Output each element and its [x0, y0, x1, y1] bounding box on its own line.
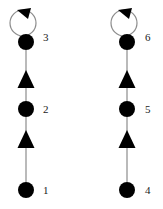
- edge-5-to-6: [119, 50, 136, 101]
- node-3[interactable]: [18, 34, 34, 50]
- node-circle[interactable]: [119, 34, 135, 50]
- node-6[interactable]: [119, 34, 135, 50]
- node-1[interactable]: [18, 182, 34, 198]
- node-4-label: 4: [145, 184, 151, 196]
- node-2[interactable]: [18, 101, 34, 117]
- edge-1-to-2: [18, 117, 35, 182]
- arrowhead-loop-icon: [118, 8, 132, 19]
- node-circle[interactable]: [119, 182, 135, 198]
- self-loop-node-6: [111, 8, 137, 36]
- left-chain-group: 3 2 1: [10, 8, 49, 198]
- node-circle[interactable]: [18, 182, 34, 198]
- arrowhead-up-icon: [18, 130, 35, 148]
- arrowhead-up-icon: [18, 70, 35, 88]
- node-5-label: 5: [145, 103, 151, 115]
- node-circle[interactable]: [119, 101, 135, 117]
- edge-4-to-5: [119, 117, 136, 182]
- graph-diagram: 3 2 1: [0, 0, 163, 209]
- node-6-label: 6: [145, 31, 151, 43]
- graph-canvas: 3 2 1: [0, 0, 163, 209]
- arrowhead-up-icon: [119, 70, 136, 88]
- node-5[interactable]: [119, 101, 135, 117]
- arrowhead-loop-icon: [17, 8, 31, 19]
- arrowhead-up-icon: [119, 130, 136, 148]
- node-3-label: 3: [43, 31, 49, 43]
- node-1-label: 1: [43, 184, 49, 196]
- right-chain-group: 6 5 4: [111, 8, 151, 198]
- edge-2-to-3: [18, 50, 35, 101]
- node-4[interactable]: [119, 182, 135, 198]
- self-loop-node-3: [10, 8, 36, 36]
- node-2-label: 2: [43, 103, 49, 115]
- node-circle[interactable]: [18, 101, 34, 117]
- node-circle[interactable]: [18, 34, 34, 50]
